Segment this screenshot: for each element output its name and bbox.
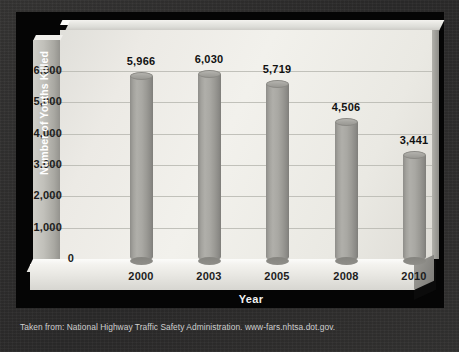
bar-cylinder-cap — [198, 70, 221, 78]
bar-cylinder[interactable] — [198, 70, 221, 259]
y-axis-tick-label: 0 — [22, 253, 74, 264]
bar-cylinder-body — [403, 155, 426, 261]
bar-cylinder-base — [130, 257, 153, 265]
y-axis-tick-label: 2,000 — [10, 190, 62, 201]
y-axis-tick-label: 4,000 — [10, 128, 62, 139]
y-axis-tick-label: 6,000 — [10, 65, 62, 76]
bar-cylinder[interactable] — [335, 118, 358, 259]
bar-cylinder-cap — [266, 80, 289, 88]
gridline — [60, 71, 432, 72]
source-caption: Taken from: National Highway Traffic Saf… — [20, 322, 335, 332]
bar-cylinder-body — [130, 76, 153, 261]
y-axis-tick-label: 5,000 — [10, 96, 62, 107]
bar-cylinder[interactable] — [130, 72, 153, 259]
bar-data-label: 5,966 — [118, 55, 164, 67]
bar-cylinder-base — [403, 257, 426, 265]
x-axis-tick-label: 2000 — [118, 270, 164, 282]
bar-cylinder-cap — [335, 118, 358, 126]
bar-cylinder-base — [266, 257, 289, 265]
gridline — [60, 134, 432, 135]
page-background: 01,0002,0003,0004,0005,0006,000 20002003… — [0, 0, 459, 352]
y-axis-title: Number of Youths Killed — [38, 38, 50, 188]
plot-back-wall — [60, 30, 433, 259]
gridline — [60, 228, 432, 229]
bar-cylinder-body — [198, 74, 221, 261]
x-axis-title: Year — [136, 293, 366, 305]
gridline — [60, 165, 432, 166]
bar-cylinder[interactable] — [266, 80, 289, 259]
bar-cylinder-base — [335, 257, 358, 265]
x-axis-tick-label: 2008 — [323, 270, 369, 282]
x-axis-tick-label: 2010 — [391, 270, 437, 282]
bar-cylinder-body — [266, 84, 289, 261]
y-axis-tick-label: 3,000 — [10, 159, 62, 170]
bar-chart-3d: 01,0002,0003,0004,0005,0006,000 20002003… — [16, 12, 444, 308]
bar-data-label: 6,030 — [186, 53, 232, 65]
bar-data-label: 5,719 — [254, 63, 300, 75]
y-axis-tick-label: 1,000 — [10, 222, 62, 233]
chart-panel: 01,0002,0003,0004,0005,0006,000 20002003… — [16, 12, 444, 308]
bar-data-label: 3,441 — [391, 134, 437, 146]
bar-cylinder-base — [198, 257, 221, 265]
gridline — [60, 102, 432, 103]
gridline — [60, 196, 432, 197]
bar-cylinder[interactable] — [403, 151, 426, 259]
x-axis-tick-label: 2003 — [186, 270, 232, 282]
bar-data-label: 4,506 — [323, 101, 369, 113]
bar-cylinder-body — [335, 122, 358, 261]
x-axis-tick-label: 2005 — [254, 270, 300, 282]
